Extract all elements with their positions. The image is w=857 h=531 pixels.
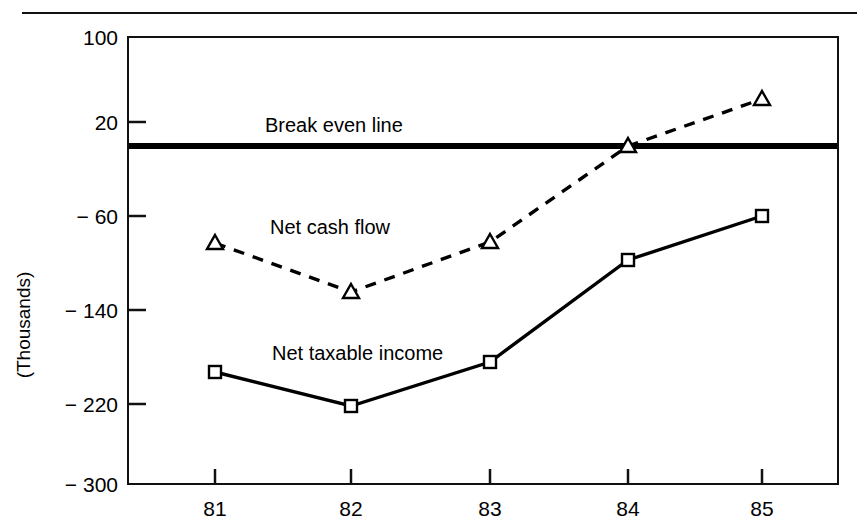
marker-square-84: [622, 254, 634, 266]
annotation-net-cash-flow: Net cash flow: [270, 216, 391, 238]
marker-square-85: [756, 210, 768, 222]
y-tick-label-neg300: − 300: [65, 473, 118, 496]
y-axis-tick-labels: 100 20 − 60 − 140 − 220 − 300: [65, 26, 118, 496]
y-tick-label-neg140: − 140: [65, 299, 118, 322]
y-axis-title: (Thousands): [13, 272, 34, 379]
line-chart: 100 20 − 60 − 140 − 220 − 300 (Thousands…: [0, 0, 857, 531]
x-tick-label-81: 81: [203, 497, 226, 520]
y-tick-label-neg220: − 220: [65, 393, 118, 416]
figure-container: 100 20 − 60 − 140 − 220 − 300 (Thousands…: [0, 0, 857, 531]
marker-square-81: [209, 366, 221, 378]
y-tick-label-20: 20: [95, 111, 118, 134]
plot-frame: [128, 37, 838, 484]
x-tick-label-82: 82: [339, 497, 362, 520]
x-tick-label-85: 85: [750, 497, 773, 520]
x-axis-tick-labels: 81 82 83 84 85: [203, 497, 773, 520]
y-tick-label-100: 100: [83, 26, 118, 49]
x-tick-label-83: 83: [478, 497, 501, 520]
annotation-break-even-line: Break even line: [265, 114, 403, 136]
y-tick-label-neg60: − 60: [77, 205, 118, 228]
annotation-net-taxable-income: Net taxable income: [272, 342, 443, 364]
marker-square-82: [345, 400, 357, 412]
x-tick-label-84: 84: [616, 497, 640, 520]
marker-square-83: [484, 356, 496, 368]
